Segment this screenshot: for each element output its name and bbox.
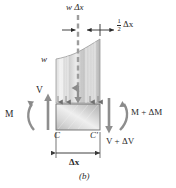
figure-caption: (b) <box>79 172 90 181</box>
half-dx-dimension <box>62 24 114 36</box>
label-shear-right: V + ΔV <box>106 137 134 146</box>
label-moment-left: M <box>5 110 13 120</box>
label-moment-right: M + ΔM <box>131 108 162 117</box>
one-half-fraction: 1 2 <box>117 18 121 32</box>
label-point-c: C <box>54 131 60 140</box>
shear-force-right-arrow <box>105 98 113 134</box>
label-load-intensity: w <box>41 55 47 64</box>
beam-element-free-body-diagram <box>0 0 176 188</box>
label-shear-left: V <box>36 86 43 96</box>
moment-left-arrow <box>28 104 34 130</box>
label-point-c-prime: C' <box>90 131 98 140</box>
label-distributed-load-resultant: w Δx <box>66 3 84 12</box>
shear-force-left-arrow <box>44 94 52 130</box>
moment-right-arrow <box>120 104 127 130</box>
beam-element-rectangle <box>56 104 100 130</box>
label-half-dx: 1 2 Δx <box>117 18 133 32</box>
half-dx-text: Δx <box>123 19 133 29</box>
fraction-denominator: 2 <box>117 26 121 33</box>
label-width-dimension: Δx <box>69 158 79 167</box>
